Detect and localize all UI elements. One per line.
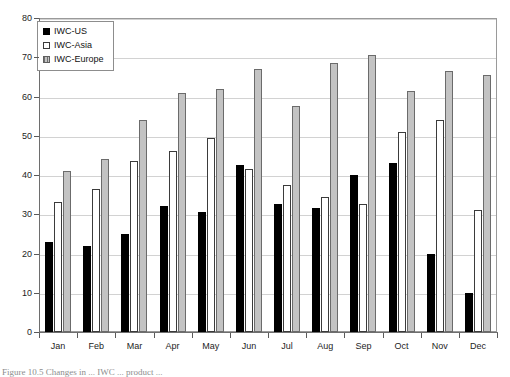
x-axis-tick bbox=[459, 333, 460, 338]
x-axis-tick bbox=[268, 333, 269, 338]
y-axis-label: 10 bbox=[6, 289, 32, 298]
y-axis-label: 70 bbox=[6, 53, 32, 62]
x-axis-label-jun: Jun bbox=[230, 341, 268, 351]
bar-iwc-us-nov bbox=[427, 254, 435, 333]
bar-iwc-us-jan bbox=[45, 242, 53, 332]
y-axis-tick bbox=[34, 97, 39, 98]
bar-iwc-us-mar bbox=[121, 234, 129, 332]
y-axis-label: 50 bbox=[6, 132, 32, 141]
bar-iwc-europe-jun bbox=[254, 69, 262, 332]
bar-iwc-europe-oct bbox=[407, 91, 415, 332]
bar-iwc-asia-feb bbox=[92, 189, 100, 332]
bar-iwc-europe-may bbox=[216, 89, 224, 332]
x-axis-tick bbox=[115, 333, 116, 338]
x-axis-tick bbox=[39, 333, 40, 338]
bar-iwc-europe-apr bbox=[178, 93, 186, 332]
legend-label-iwc-europe: IWC-Europe bbox=[54, 55, 104, 64]
y-axis-label: 60 bbox=[6, 93, 32, 102]
bar-iwc-us-aug bbox=[312, 208, 320, 332]
bar-iwc-asia-sep bbox=[359, 204, 367, 332]
chart-legend: IWC-US IWC-Asia IWC-Europe bbox=[37, 21, 114, 71]
y-axis-label: 30 bbox=[6, 210, 32, 219]
gridline bbox=[40, 19, 496, 20]
bar-iwc-europe-jul bbox=[292, 106, 300, 332]
x-axis-label-may: May bbox=[192, 341, 230, 351]
y-axis-tick bbox=[34, 18, 39, 19]
y-axis-label: 80 bbox=[6, 14, 32, 23]
y-axis-tick bbox=[34, 136, 39, 137]
bar-iwc-asia-jul bbox=[283, 185, 291, 332]
bar-iwc-us-sep bbox=[350, 175, 358, 332]
bar-iwc-europe-mar bbox=[139, 120, 147, 332]
x-axis-label-feb: Feb bbox=[77, 341, 115, 351]
legend-swatch-icon-iwc-europe bbox=[43, 56, 50, 63]
bar-iwc-us-jul bbox=[274, 204, 282, 332]
x-axis-label-oct: Oct bbox=[383, 341, 421, 351]
bar-iwc-asia-dec bbox=[474, 210, 482, 332]
bar-iwc-europe-feb bbox=[101, 159, 109, 332]
bar-iwc-asia-may bbox=[207, 138, 215, 332]
x-axis-tick bbox=[383, 333, 384, 338]
bar-iwc-asia-nov bbox=[436, 120, 444, 332]
bar-iwc-europe-aug bbox=[330, 63, 338, 332]
x-axis-label-apr: Apr bbox=[154, 341, 192, 351]
x-axis-tick bbox=[497, 333, 498, 338]
legend-swatch-icon-iwc-asia bbox=[43, 42, 50, 49]
y-axis-tick bbox=[34, 293, 39, 294]
bar-iwc-us-dec bbox=[465, 293, 473, 332]
bar-iwc-europe-jan bbox=[63, 171, 71, 332]
x-axis-label-sep: Sep bbox=[344, 341, 382, 351]
bar-chart: IWC-US IWC-Asia IWC-Europe Figure 10.5 C… bbox=[0, 0, 510, 377]
bar-iwc-asia-mar bbox=[130, 161, 138, 332]
legend-item-iwc-asia: IWC-Asia bbox=[43, 39, 104, 52]
x-axis-tick bbox=[77, 333, 78, 338]
gridline bbox=[40, 98, 496, 99]
legend-label-iwc-us: IWC-US bbox=[54, 27, 87, 36]
x-axis-tick bbox=[154, 333, 155, 338]
bar-iwc-europe-sep bbox=[368, 55, 376, 332]
legend-swatch-icon-iwc-us bbox=[43, 28, 50, 35]
y-axis-tick bbox=[34, 175, 39, 176]
bar-iwc-asia-jan bbox=[54, 202, 62, 332]
bar-iwc-us-oct bbox=[389, 163, 397, 332]
x-axis-tick bbox=[421, 333, 422, 338]
x-axis-tick bbox=[230, 333, 231, 338]
x-axis-label-dec: Dec bbox=[459, 341, 497, 351]
gridline bbox=[40, 137, 496, 138]
bar-iwc-us-jun bbox=[236, 165, 244, 332]
bar-iwc-asia-aug bbox=[321, 197, 329, 332]
bar-iwc-europe-dec bbox=[483, 75, 491, 332]
x-axis-label-nov: Nov bbox=[421, 341, 459, 351]
bar-iwc-asia-apr bbox=[169, 151, 177, 332]
x-axis-label-jan: Jan bbox=[39, 341, 77, 351]
legend-item-iwc-us: IWC-US bbox=[43, 25, 104, 38]
x-axis-tick bbox=[344, 333, 345, 338]
legend-label-iwc-asia: IWC-Asia bbox=[54, 41, 92, 50]
x-axis-tick bbox=[306, 333, 307, 338]
bar-iwc-us-feb bbox=[83, 246, 91, 332]
x-axis-label-aug: Aug bbox=[306, 341, 344, 351]
y-axis-label: 0 bbox=[6, 328, 32, 337]
bar-iwc-europe-nov bbox=[445, 71, 453, 332]
y-axis-tick bbox=[34, 254, 39, 255]
legend-item-iwc-europe: IWC-Europe bbox=[43, 53, 104, 66]
x-axis-label-jul: Jul bbox=[268, 341, 306, 351]
x-axis-tick bbox=[192, 333, 193, 338]
bar-iwc-asia-oct bbox=[398, 132, 406, 332]
x-axis-label-mar: Mar bbox=[115, 341, 153, 351]
bar-iwc-us-apr bbox=[160, 206, 168, 332]
y-axis-tick bbox=[34, 57, 39, 58]
y-axis-tick bbox=[34, 214, 39, 215]
bar-iwc-asia-jun bbox=[245, 169, 253, 332]
y-axis-label: 40 bbox=[6, 171, 32, 180]
y-axis-label: 20 bbox=[6, 250, 32, 259]
bar-iwc-us-may bbox=[198, 212, 206, 332]
figure-caption: Figure 10.5 Changes in ... IWC ... produ… bbox=[2, 367, 508, 377]
